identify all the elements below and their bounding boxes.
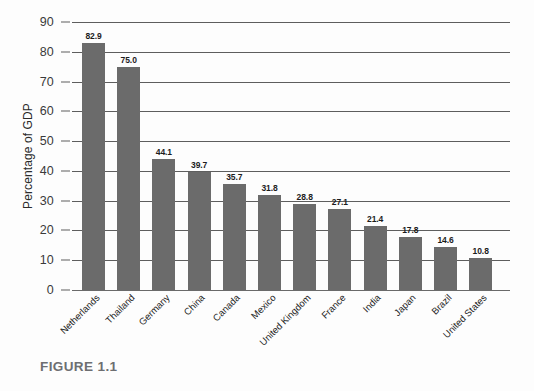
x-axis-label-text: India (361, 292, 383, 314)
bar-rect (328, 209, 351, 290)
chart-plot-area: Percentage of GDP 0102030405060708090 82… (72, 22, 510, 290)
y-tick-mark-60 (61, 111, 70, 112)
bar-canada: 35.7 (223, 184, 246, 290)
bar-china: 39.7 (188, 172, 211, 290)
x-axis-label-text: Brazil (429, 292, 454, 317)
y-tick-mark-0 (61, 290, 70, 291)
bar-rect (223, 184, 246, 290)
gridline-0 (72, 290, 510, 291)
bar-value-label: 75.0 (121, 55, 137, 65)
bar-value-label: 10.8 (473, 246, 489, 256)
y-tick-label-80: 80 (0, 45, 54, 59)
x-axis-label-text: Mexico (248, 292, 277, 321)
bar-value-label: 44.1 (156, 147, 172, 157)
bar-rect (399, 237, 422, 290)
bar-value-label: 82.9 (85, 31, 101, 41)
bar-united-kingdom: 28.8 (293, 204, 316, 290)
bar-rect (82, 43, 105, 290)
y-tick-mark-90 (61, 22, 70, 23)
x-axis-label-text: Germany (136, 292, 171, 327)
bar-japan: 17.8 (399, 237, 422, 290)
y-tick-label-50: 50 (0, 134, 54, 148)
y-tick-label-30: 30 (0, 194, 54, 208)
y-tick-mark-30 (61, 200, 70, 201)
bar-value-label: 39.7 (191, 160, 207, 170)
y-tick-label-70: 70 (0, 75, 54, 89)
bar-value-label: 21.4 (367, 214, 383, 224)
x-axis-label-text: Japan (392, 292, 418, 318)
bar-value-label: 14.6 (437, 235, 453, 245)
y-tick-mark-70 (61, 81, 70, 82)
y-tick-mark-80 (61, 51, 70, 52)
bar-value-label: 35.7 (226, 172, 242, 182)
bar-value-label: 28.8 (297, 192, 313, 202)
figure-container: Percentage of GDP 0102030405060708090 82… (0, 0, 534, 391)
y-tick-mark-10 (61, 260, 70, 261)
bar-rect (293, 204, 316, 290)
bar-rect (152, 159, 175, 290)
bar-value-label: 31.8 (261, 183, 277, 193)
y-tick-mark-50 (61, 141, 70, 142)
bar-germany: 44.1 (152, 159, 175, 290)
x-axis-label-text: Canada (211, 292, 242, 323)
bar-rect (188, 172, 211, 290)
bar-france: 27.1 (328, 209, 351, 290)
bar-thailand: 75.0 (117, 67, 140, 290)
bar-rect (117, 67, 140, 290)
bars-group: 82.975.044.139.735.731.828.827.121.417.8… (72, 22, 510, 290)
bar-rect (469, 258, 492, 290)
x-axis-label-china: China (0, 292, 207, 391)
bar-rect (364, 226, 387, 290)
y-tick-label-0: 0 (0, 283, 54, 297)
bar-rect (434, 247, 457, 290)
x-axis-label-text: China (182, 292, 207, 317)
bar-netherlands: 82.9 (82, 43, 105, 290)
bar-value-label: 17.8 (402, 225, 418, 235)
y-tick-mark-20 (61, 230, 70, 231)
y-tick-label-40: 40 (0, 164, 54, 178)
bar-india: 21.4 (364, 226, 387, 290)
bar-brazil: 14.6 (434, 247, 457, 290)
y-tick-label-60: 60 (0, 104, 54, 118)
bar-value-label: 27.1 (332, 197, 348, 207)
x-axis-label-text: France (319, 292, 348, 321)
bar-united-states: 10.8 (469, 258, 492, 290)
bar-rect (258, 195, 281, 290)
y-tick-label-90: 90 (0, 15, 54, 29)
x-axis-labels: NetherlandsThailandGermanyChinaCanadaMex… (72, 292, 510, 360)
y-tick-label-10: 10 (0, 253, 54, 267)
y-tick-mark-40 (61, 170, 70, 171)
bar-mexico: 31.8 (258, 195, 281, 290)
figure-caption: FIGURE 1.1 (40, 359, 118, 374)
y-tick-label-20: 20 (0, 223, 54, 237)
x-axis-label-text: Thailand (103, 292, 137, 326)
